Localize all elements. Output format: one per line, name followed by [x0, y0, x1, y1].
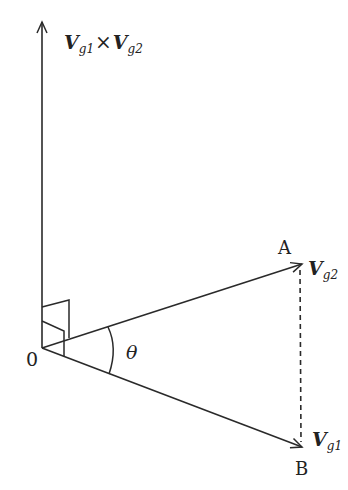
point-a-label: A — [277, 237, 292, 258]
point-b-label: B — [295, 458, 308, 479]
dashed-segment-ab — [300, 270, 301, 442]
angle-arc — [108, 327, 113, 374]
right-angle-marker-lower — [42, 321, 64, 356]
diagram-canvas: 0 θ A B Vg1×Vg2 Vg2 Vg1 — [0, 0, 348, 490]
angle-theta-label: θ — [126, 341, 138, 363]
cross-product-label: Vg1×Vg2 — [64, 30, 143, 56]
vector-vg1-label: Vg1 — [312, 428, 342, 453]
vector-vg2-line — [42, 264, 302, 348]
vector-vg1-line — [42, 348, 302, 447]
right-angle-marker-upper — [42, 300, 69, 338]
vector-vg2-label: Vg2 — [308, 257, 338, 282]
origin-label: 0 — [26, 348, 38, 370]
